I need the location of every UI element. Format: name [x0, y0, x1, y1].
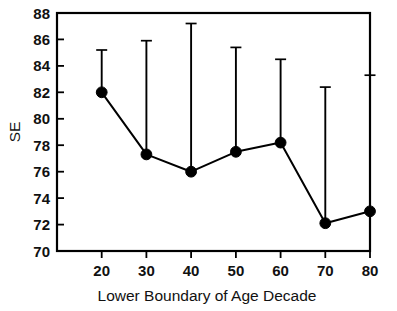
x-tick-label: 20 — [93, 262, 110, 279]
data-point — [186, 166, 197, 177]
x-tick-label: 70 — [317, 262, 334, 279]
x-tick-label: 40 — [183, 262, 200, 279]
data-point — [141, 149, 152, 160]
chart-container: 88 86 84 82 80 78 76 74 72 70 20 30 40 5… — [0, 0, 397, 311]
y-tick-label: 82 — [33, 84, 50, 101]
data-point — [320, 218, 331, 229]
x-tick-label: 80 — [362, 262, 379, 279]
y-tick-label: 88 — [33, 5, 50, 22]
y-tick-label: 72 — [33, 216, 50, 233]
x-axis-title: Lower Boundary of Age Decade — [98, 287, 317, 304]
y-tick-label: 84 — [33, 57, 50, 74]
data-point — [275, 137, 286, 148]
y-tick-label: 80 — [33, 110, 50, 127]
data-point — [231, 146, 242, 157]
y-tick-label: 70 — [33, 243, 50, 260]
y-tick-label: 78 — [33, 137, 50, 154]
data-point — [365, 206, 376, 217]
data-point — [96, 87, 107, 98]
y-tick-label: 86 — [33, 31, 50, 48]
y-axis-title: SE — [6, 122, 23, 143]
y-tick-label: 76 — [33, 163, 50, 180]
se-vs-age-decade-line-chart: 88 86 84 82 80 78 76 74 72 70 20 30 40 5… — [0, 0, 397, 311]
y-tick-label: 74 — [33, 190, 50, 207]
x-tick-label: 50 — [228, 262, 245, 279]
x-tick-label: 30 — [138, 262, 155, 279]
x-tick-label: 60 — [272, 262, 289, 279]
